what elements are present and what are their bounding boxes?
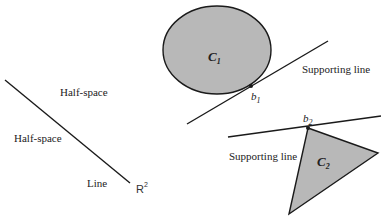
r2-label: R2 [136,181,148,195]
point-b1 [249,84,253,88]
half-space-label-upper: Half-space [60,86,108,98]
convex-set-c2 [289,128,378,214]
line-label: Line [87,177,107,189]
convex-set-c1 [163,6,271,94]
supporting-line-2-label: Supporting line [229,150,297,162]
supporting-line-diagram: Half-space Half-space Line R2 C1 b1 Supp… [0,0,388,223]
half-space-label-lower: Half-space [14,132,62,144]
supporting-line-1-label: Supporting line [302,63,370,75]
b2-label: b2 [303,112,313,127]
b1-label: b1 [251,90,261,105]
